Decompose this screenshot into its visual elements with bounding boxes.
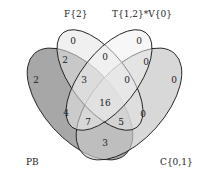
region-f-only: 0 [70,36,76,46]
label-pb: PB [26,157,39,167]
region-all: 16 [99,98,111,108]
region-right-inner: 5 [118,117,124,127]
region-c-only: 0 [171,75,177,85]
region-pb-f-c: 4 [63,108,69,118]
label-c: C{0,1} [160,157,193,167]
region-f-t-c: 0 [124,75,130,85]
label-t: T{1,2}*V{0} [112,9,172,19]
region-pb-f-t: 3 [81,75,87,85]
region-left-inner: 7 [85,117,91,127]
region-pb-c: 3 [102,138,108,148]
venn-diagram: F{2} T{1,2}*V{0} PB C{0,1} 0 0 2 0 2 0 0… [0,0,209,176]
region-t-c: 0 [143,57,149,67]
region-pb-f: 2 [62,55,68,65]
label-f: F{2} [64,9,87,19]
region-pb-only: 2 [33,75,39,85]
region-f-t: 0 [102,52,108,62]
region-t-c-pb-outer: 0 [140,109,146,119]
region-t-only: 0 [136,36,142,46]
